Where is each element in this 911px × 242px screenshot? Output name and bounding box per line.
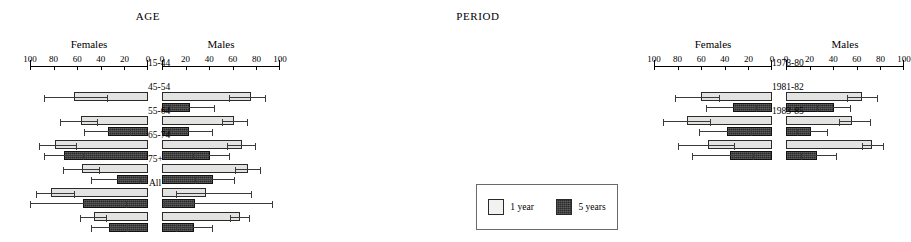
- bar-row: [654, 151, 772, 160]
- bar-row: [786, 140, 904, 149]
- error-bar-cap: [850, 105, 851, 112]
- error-bar-cap: [801, 153, 802, 160]
- error-bar-cap: [877, 95, 878, 102]
- axis-line-period-females: [654, 66, 772, 67]
- bar-group: [30, 92, 148, 112]
- error-bar-cap: [870, 119, 871, 126]
- bar-1-year: [162, 212, 240, 221]
- error-bar: [80, 217, 107, 218]
- error-bar-cap: [106, 215, 107, 222]
- axis-tick-label: 80: [673, 54, 682, 64]
- error-bar-cap: [847, 95, 848, 102]
- bar-row: [30, 212, 148, 221]
- axis-tick: [30, 60, 31, 70]
- panel-title-age: AGE: [0, 10, 304, 22]
- bar-row: [30, 140, 148, 149]
- error-bar-cap: [84, 129, 85, 136]
- category-label: All: [148, 179, 162, 189]
- bar-1-year: [786, 140, 872, 149]
- error-bar-cap: [44, 153, 45, 160]
- bar-row: [162, 223, 280, 232]
- error-bar-cap: [272, 201, 273, 208]
- error-bar-cap: [234, 177, 235, 184]
- error-bar-cap: [212, 129, 213, 136]
- error-bar-cap: [214, 105, 215, 112]
- tick-labels-age-males: 020406080100: [162, 54, 280, 65]
- bar-row: [162, 140, 280, 149]
- bar-group: [162, 212, 280, 232]
- axis-tick-label: 100: [897, 54, 911, 64]
- error-bar-cap: [756, 105, 757, 112]
- bar-row: [30, 188, 148, 197]
- error-bar-cap: [63, 167, 64, 174]
- bar-row: [30, 151, 148, 160]
- bar-row: [654, 116, 772, 125]
- error-bar-cap: [176, 191, 177, 198]
- error-bar-cap: [44, 95, 45, 102]
- legend-swatch-5-years: [556, 199, 572, 215]
- bar-row: [162, 212, 280, 221]
- axis-tick-label: 80: [876, 54, 885, 64]
- axis-tick-label: 60: [852, 54, 861, 64]
- bar-row: [786, 127, 904, 136]
- error-bar-cap: [227, 143, 228, 150]
- error-bar: [60, 121, 99, 122]
- bar-row: [162, 199, 280, 208]
- error-bar: [44, 155, 84, 156]
- axis-tick: [857, 66, 858, 70]
- axis-period-females: 100806040200: [654, 54, 772, 70]
- error-bar-cap: [229, 95, 230, 102]
- tick-labels-period-females: 100806040200: [654, 54, 772, 65]
- error-bar-cap: [76, 143, 77, 150]
- error-bar: [63, 169, 100, 170]
- category-label: 75+: [148, 155, 162, 165]
- axis-tick: [209, 66, 210, 70]
- axis-tick-label: 60: [73, 54, 82, 64]
- axis-tick-label: 40: [720, 54, 729, 64]
- axis-age-females: 100806040200: [30, 54, 148, 70]
- axis-tick: [833, 66, 834, 70]
- bar-group: [162, 92, 280, 112]
- error-bar: [176, 193, 252, 194]
- error-bar-cap: [140, 177, 141, 184]
- error-bar-cap: [164, 201, 165, 208]
- axis-tick: [233, 66, 234, 70]
- bar-group: [30, 116, 148, 136]
- error-bar-cap: [74, 191, 75, 198]
- bar-row: [786, 92, 904, 101]
- error-bar: [222, 121, 248, 122]
- axis-tick: [903, 60, 904, 70]
- axis-tick-label: 40: [205, 54, 214, 64]
- plot-area-age-females: [30, 92, 148, 236]
- error-bar: [230, 217, 250, 218]
- error-bar: [164, 203, 273, 204]
- error-bar-cap: [719, 95, 720, 102]
- axis-tick-label: 80: [252, 54, 261, 64]
- error-bar-cap: [706, 105, 707, 112]
- error-bar-cap: [30, 201, 31, 208]
- axis-tick: [54, 66, 55, 70]
- bar-row: [30, 116, 148, 125]
- plot-area-period-males: [786, 92, 904, 164]
- error-bar: [817, 107, 851, 108]
- error-bar-cap: [107, 95, 108, 102]
- error-bar-cap: [817, 105, 818, 112]
- error-bar-cap: [126, 201, 127, 208]
- error-bar-cap: [663, 119, 664, 126]
- bar-row: [654, 140, 772, 149]
- error-bar-cap: [39, 143, 40, 150]
- bar-row: [30, 103, 148, 112]
- bar-row: [162, 116, 280, 125]
- error-bar: [44, 97, 108, 98]
- error-bar-cap: [734, 143, 735, 150]
- bar-row: [162, 92, 280, 101]
- axis-tick-label: 40: [96, 54, 105, 64]
- bar-row: [30, 92, 148, 101]
- plot-area-period-females: [654, 92, 772, 164]
- bar-group: [30, 212, 148, 232]
- error-bar-cap: [222, 119, 223, 126]
- bar-row: [162, 103, 280, 112]
- bar-row: [162, 127, 280, 136]
- error-bar-cap: [255, 143, 256, 150]
